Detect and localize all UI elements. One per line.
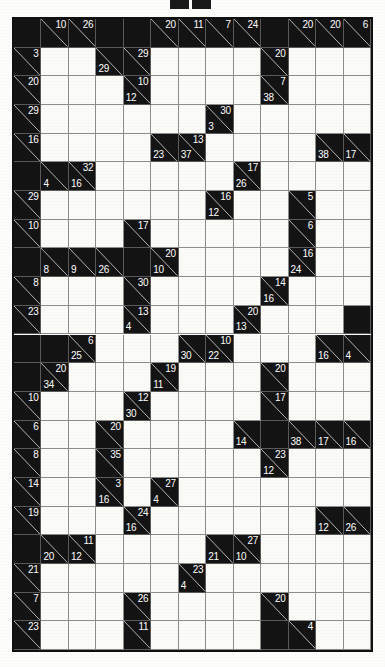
entry-cell[interactable] (151, 621, 178, 650)
entry-cell[interactable] (316, 191, 343, 220)
entry-cell[interactable] (69, 105, 96, 134)
entry-cell[interactable] (261, 564, 288, 593)
entry-cell[interactable] (41, 105, 68, 134)
entry-cell[interactable] (179, 306, 206, 335)
entry-cell[interactable] (289, 507, 316, 536)
entry-cell[interactable] (179, 621, 206, 650)
entry-cell[interactable] (96, 535, 123, 564)
entry-cell[interactable] (41, 449, 68, 478)
entry-cell[interactable] (206, 248, 233, 277)
entry-cell[interactable] (344, 191, 371, 220)
entry-cell[interactable] (234, 335, 261, 364)
entry-cell[interactable] (69, 392, 96, 421)
entry-cell[interactable] (179, 248, 206, 277)
entry-cell[interactable] (234, 392, 261, 421)
entry-cell[interactable] (316, 621, 343, 650)
entry-cell[interactable] (344, 277, 371, 306)
entry-cell[interactable] (289, 76, 316, 105)
entry-cell[interactable] (289, 105, 316, 134)
entry-cell[interactable] (316, 363, 343, 392)
entry-cell[interactable] (41, 306, 68, 335)
entry-cell[interactable] (316, 449, 343, 478)
entry-cell[interactable] (344, 535, 371, 564)
entry-cell[interactable] (179, 363, 206, 392)
entry-cell[interactable] (96, 507, 123, 536)
entry-cell[interactable] (69, 277, 96, 306)
entry-cell[interactable] (96, 162, 123, 191)
entry-cell[interactable] (151, 564, 178, 593)
entry-cell[interactable] (344, 449, 371, 478)
entry-cell[interactable] (234, 507, 261, 536)
entry-cell[interactable] (124, 191, 151, 220)
entry-cell[interactable] (344, 478, 371, 507)
entry-cell[interactable] (96, 76, 123, 105)
entry-cell[interactable] (41, 421, 68, 450)
entry-cell[interactable] (69, 306, 96, 335)
entry-cell[interactable] (41, 48, 68, 77)
entry-cell[interactable] (344, 162, 371, 191)
entry-cell[interactable] (261, 478, 288, 507)
entry-cell[interactable] (261, 105, 288, 134)
entry-cell[interactable] (41, 277, 68, 306)
entry-cell[interactable] (124, 363, 151, 392)
entry-cell[interactable] (179, 449, 206, 478)
entry-cell[interactable] (316, 564, 343, 593)
entry-cell[interactable] (41, 507, 68, 536)
entry-cell[interactable] (316, 392, 343, 421)
entry-cell[interactable] (96, 306, 123, 335)
entry-cell[interactable] (179, 76, 206, 105)
entry-cell[interactable] (289, 335, 316, 364)
entry-cell[interactable] (69, 76, 96, 105)
entry-cell[interactable] (179, 507, 206, 536)
entry-cell[interactable] (179, 220, 206, 249)
entry-cell[interactable] (179, 478, 206, 507)
entry-cell[interactable] (179, 421, 206, 450)
entry-cell[interactable] (151, 277, 178, 306)
entry-cell[interactable] (234, 248, 261, 277)
entry-cell[interactable] (41, 134, 68, 163)
entry-cell[interactable] (289, 363, 316, 392)
entry-cell[interactable] (344, 564, 371, 593)
entry-cell[interactable] (69, 48, 96, 77)
entry-cell[interactable] (151, 392, 178, 421)
entry-cell[interactable] (206, 48, 233, 77)
entry-cell[interactable] (124, 564, 151, 593)
entry-cell[interactable] (316, 277, 343, 306)
entry-cell[interactable] (316, 593, 343, 622)
entry-cell[interactable] (316, 306, 343, 335)
entry-cell[interactable] (344, 363, 371, 392)
entry-cell[interactable] (124, 162, 151, 191)
entry-cell[interactable] (69, 507, 96, 536)
entry-cell[interactable] (289, 593, 316, 622)
entry-cell[interactable] (206, 306, 233, 335)
entry-cell[interactable] (69, 478, 96, 507)
entry-cell[interactable] (261, 162, 288, 191)
entry-cell[interactable] (289, 48, 316, 77)
entry-cell[interactable] (124, 535, 151, 564)
entry-cell[interactable] (289, 162, 316, 191)
entry-cell[interactable] (289, 449, 316, 478)
entry-cell[interactable] (41, 564, 68, 593)
entry-cell[interactable] (206, 421, 233, 450)
entry-cell[interactable] (261, 335, 288, 364)
entry-cell[interactable] (206, 449, 233, 478)
entry-cell[interactable] (124, 478, 151, 507)
entry-cell[interactable] (96, 363, 123, 392)
entry-cell[interactable] (41, 478, 68, 507)
entry-cell[interactable] (316, 248, 343, 277)
entry-cell[interactable] (206, 593, 233, 622)
entry-cell[interactable] (179, 593, 206, 622)
entry-cell[interactable] (234, 363, 261, 392)
entry-cell[interactable] (179, 535, 206, 564)
entry-cell[interactable] (344, 220, 371, 249)
entry-cell[interactable] (344, 105, 371, 134)
entry-cell[interactable] (124, 421, 151, 450)
entry-cell[interactable] (261, 134, 288, 163)
entry-cell[interactable] (234, 105, 261, 134)
entry-cell[interactable] (289, 564, 316, 593)
entry-cell[interactable] (206, 162, 233, 191)
entry-cell[interactable] (206, 478, 233, 507)
entry-cell[interactable] (151, 76, 178, 105)
entry-cell[interactable] (234, 277, 261, 306)
entry-cell[interactable] (234, 449, 261, 478)
